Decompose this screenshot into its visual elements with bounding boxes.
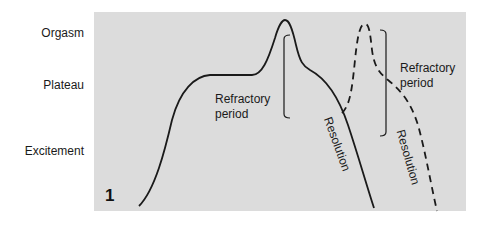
figure-number: 1 xyxy=(105,186,114,206)
refractory-bracket-2 xyxy=(380,30,386,136)
refractory-label-1-line1: Refractory xyxy=(215,92,270,107)
refractory-label-1-line2: period xyxy=(215,107,270,122)
refractory-label-2: Refractory period xyxy=(400,61,455,91)
refractory-label-2-line1: Refractory xyxy=(400,61,455,76)
dashed-response-curve xyxy=(342,24,437,211)
refractory-label-1: Refractory period xyxy=(215,92,270,122)
refractory-bracket-1 xyxy=(284,35,290,118)
refractory-label-2-line2: period xyxy=(400,76,455,91)
